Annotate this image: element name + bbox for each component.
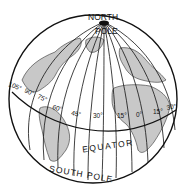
europe: [119, 48, 166, 83]
north-america: [22, 38, 81, 92]
north-label: NORTH: [88, 12, 118, 22]
longitude-label: 15°: [117, 112, 127, 119]
longitude-label: 45°: [71, 109, 82, 118]
greenland: [86, 37, 104, 52]
longitude-label: 0°: [136, 111, 143, 118]
equator-label: EQUATOR: [82, 137, 135, 154]
south-pole-label: SOUTH POLE: [49, 163, 115, 184]
longitude-label: 15°: [153, 108, 163, 115]
longitude-label: 30°: [93, 112, 103, 119]
pole-label: POLE: [95, 26, 118, 36]
longitude-label: 75°: [37, 93, 49, 104]
globe-diagram: NORTH POLE EQUATOR SOUTH POLE 105° 90° 7…: [0, 0, 187, 195]
